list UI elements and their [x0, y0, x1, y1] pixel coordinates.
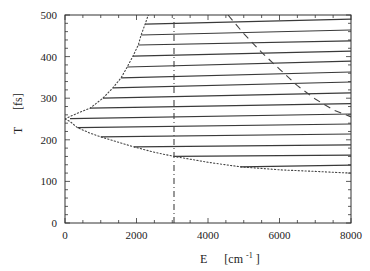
line-9-series: [90, 104, 351, 109]
y-axis-label: T [fs]: [11, 93, 25, 134]
line-11-series: [78, 124, 352, 128]
line-4-series: [133, 51, 351, 56]
line-3-series: [138, 41, 351, 45]
plot-area: [65, 15, 351, 223]
y-tick-label: 0: [52, 217, 58, 229]
line-15-series: [240, 165, 351, 167]
y-tick-label: 500: [41, 9, 58, 21]
line-8-series: [103, 93, 351, 98]
line-6-series: [121, 72, 351, 78]
axis-ticks: [65, 15, 351, 223]
y-tick-label: 200: [41, 134, 58, 146]
y-tick-labels: 0100200300400500: [41, 9, 58, 229]
x-axis-symbol: E: [200, 252, 207, 266]
y-tick-label: 300: [41, 92, 58, 104]
y-axis-symbol: T: [11, 126, 25, 134]
x-axis-unit-exponent: -1: [246, 251, 253, 260]
line-12-series: [101, 134, 351, 137]
line-2-series: [141, 30, 351, 35]
x-tick-labels: 02000400060008000: [62, 229, 362, 241]
x-axis-unit: [cm: [224, 252, 243, 266]
x-tick-label: 2000: [126, 229, 149, 241]
x-axis-label: E [cm -1 ]: [200, 247, 260, 266]
line-5-series: [127, 61, 351, 67]
x-tick-label: 4000: [197, 229, 220, 241]
chart: 02000400060008000 0100200300400500 E [cm…: [0, 0, 370, 271]
y-tick-label: 100: [41, 175, 58, 187]
y-tick-label: 400: [41, 51, 58, 63]
line-13-series: [134, 145, 351, 147]
x-tick-label: 0: [62, 229, 68, 241]
plot-frame: [65, 15, 351, 223]
line-14-series: [174, 155, 351, 156]
line-7-series: [113, 82, 351, 88]
x-tick-label: 6000: [269, 229, 292, 241]
y-axis-unit: [fs]: [11, 93, 25, 110]
line-10-series: [70, 114, 351, 119]
line-1-series: [145, 19, 351, 24]
x-tick-label: 8000: [340, 229, 363, 241]
x-axis-unit-close: ]: [256, 252, 260, 266]
